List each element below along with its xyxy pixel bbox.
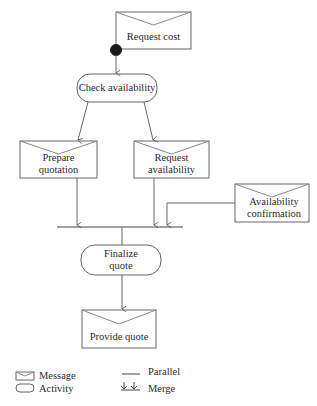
start-dot [111,45,122,56]
legend-activity-label: Activity [39,383,73,395]
request-cost-label: Request cost [116,31,191,43]
availability-confirmation-line1: Availability [237,196,311,208]
legend-merge-label: Merge [148,383,175,395]
check-availability-label: Check availability [77,82,157,94]
request-availability-line1: Request [134,152,209,164]
prepare-quotation-line2: quotation [20,164,97,176]
legend-parallel-label: Parallel [148,366,180,378]
legend-message-icon [16,372,34,380]
provide-quote-label: Provide quote [82,331,156,343]
availability-confirmation-line2: confirmation [237,208,311,220]
finalize-quote-line2: quote [81,260,161,272]
finalize-quote-line1: Finalize [81,248,161,260]
legend-merge-icon [121,382,140,390]
request-availability-line2: availability [134,164,209,176]
prepare-quotation-line1: Prepare [20,152,97,164]
legend-message-label: Message [39,370,76,382]
legend-activity-icon [16,384,34,392]
